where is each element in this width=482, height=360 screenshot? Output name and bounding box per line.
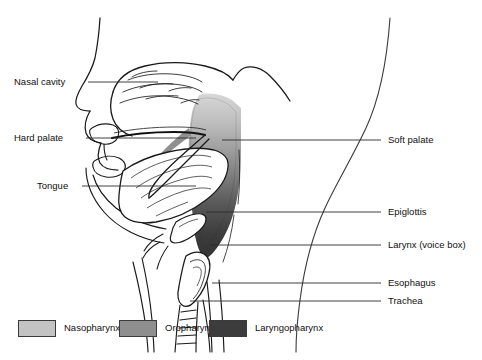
sagittal-head-diagram xyxy=(0,0,482,360)
legend-label-laryngopharynx: Laryngopharynx xyxy=(255,322,323,334)
label-tongue: Tongue xyxy=(37,181,68,191)
legend-swatch-oropharynx xyxy=(119,320,157,337)
larynx xyxy=(178,252,210,306)
anatomy-figure: Nasal cavityHard palateTongue Soft palat… xyxy=(0,0,482,360)
label-trachea: Trachea xyxy=(388,296,423,306)
head-outline xyxy=(76,18,118,170)
legend-swatch-laryngopharynx xyxy=(209,320,247,337)
label-larynx: Larynx (voice box) xyxy=(388,240,466,250)
label-hard_palate: Hard palate xyxy=(14,133,63,143)
label-epiglottis: Epiglottis xyxy=(388,207,427,217)
legend: NasopharynxOropharynxLaryngopharynx xyxy=(0,318,482,346)
legend-label-nasopharynx: Nasopharynx xyxy=(64,322,120,334)
nasal-turbinates xyxy=(120,71,202,104)
label-soft_palate: Soft palate xyxy=(388,135,433,145)
label-esophagus: Esophagus xyxy=(388,278,436,288)
legend-label-oropharynx: Oropharynx xyxy=(165,322,215,334)
upper-jaw-teeth xyxy=(90,124,119,160)
legend-swatch-nasopharynx xyxy=(18,320,56,337)
label-nasal_cavity: Nasal cavity xyxy=(14,77,65,87)
neck-back-contour xyxy=(296,18,390,352)
